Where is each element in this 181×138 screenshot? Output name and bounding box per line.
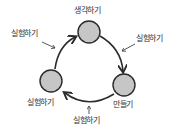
pointer-arrow-top-left xyxy=(42,42,55,48)
node-think xyxy=(78,21,100,43)
node-label-make: 만들기 xyxy=(113,100,133,110)
edge-think-make xyxy=(100,36,123,71)
node-label-experiment: 실험하기 xyxy=(27,98,54,108)
node-experiment xyxy=(40,70,62,92)
annotation-label-right: 실험하기 xyxy=(136,34,163,44)
annotation-label-bottom: 실험하기 xyxy=(73,116,100,126)
edge-make-experiment xyxy=(65,93,114,102)
pointer-arrow-top-right xyxy=(122,44,135,51)
annotation-label-left: 실험하기 xyxy=(11,29,38,39)
node-make xyxy=(113,74,135,96)
node-label-think: 생각하기 xyxy=(74,6,101,16)
edge-experiment-think xyxy=(55,37,75,69)
